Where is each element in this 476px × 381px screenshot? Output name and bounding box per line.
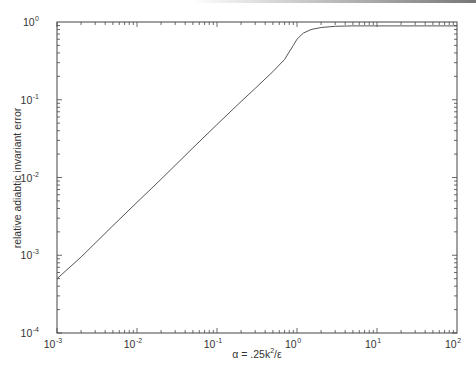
y-tick-labels: 10010-110-210-310-4 [21,15,40,339]
y-tick-label: 10-1 [21,93,40,106]
axis-ticks [57,22,457,333]
x-tick-label: 10-3 [44,337,63,350]
y-axis-label: relative adiabtic invariant error [11,107,23,248]
x-tick-label: 10-1 [204,337,223,350]
y-tick-label: 10-3 [21,248,40,261]
x-tick-label: 100 [285,337,301,350]
x-tick-label: 102 [445,337,461,350]
y-tick-label: 100 [23,15,39,28]
y-tick-label: 10-4 [21,326,40,339]
x-tick-label: 101 [365,337,381,350]
x-tick-label: 10-2 [124,337,143,350]
x-axis-label: α = .25k2/ε [232,347,282,360]
chart: 10-310-210-1100101102 10010-110-210-310-… [0,0,476,381]
data-line [57,26,457,279]
y-tick-label: 10-2 [21,171,40,184]
plot-frame [57,22,457,333]
